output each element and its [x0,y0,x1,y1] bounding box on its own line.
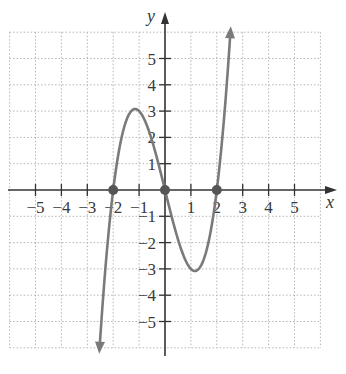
x-tick-label: 1 [187,198,196,217]
y-tick-label: −5 [138,313,156,332]
zero-point [212,185,222,195]
x-tick-label: −4 [52,198,71,217]
axes: x y [8,6,337,356]
curve-arrow-down-icon [95,341,105,353]
cubic-graph: x y −5−4−3−2−11234554321−1−2−3−4−5 [0,0,346,374]
y-tick-label: −2 [138,234,156,253]
x-axis-label: x [325,192,334,212]
curve-arrow-up-icon [225,26,235,38]
x-tick-label: 5 [290,198,299,217]
x-tick-label: −5 [26,198,44,217]
y-tick-label: 1 [148,155,157,174]
y-tick-label: 4 [148,76,157,95]
y-tick-label: 5 [148,50,157,69]
y-tick-label: −1 [138,207,156,226]
y-tick-label: −4 [138,286,157,305]
x-tick-label: 4 [264,198,273,217]
x-tick-label: −3 [78,198,96,217]
zero-point [160,185,170,195]
y-axis-label: y [145,6,155,26]
x-tick-label: 3 [238,198,247,217]
y-axis-arrow-icon [161,12,169,24]
zero-point [108,185,118,195]
y-tick-label: −3 [138,260,156,279]
y-tick-label: 3 [148,102,157,121]
